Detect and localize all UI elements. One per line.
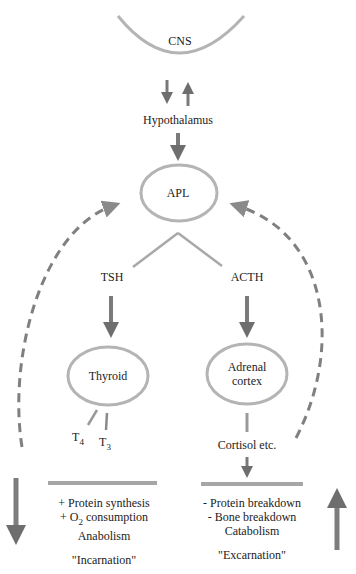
cortisol-label: Cortisol etc. [207,438,287,452]
diagram-canvas [0,0,356,574]
left-effects: + Protein synthesis + O2 consumption Ana… [44,496,164,567]
left-effect-o2-consumption: + O2 consumption [44,510,164,529]
left-feedback-dashed-arrow [19,206,112,447]
thyroid-output-strokes [88,410,107,430]
apl-branch-lines [133,233,222,267]
t3-label: T3 [95,435,115,454]
t4-label: T4 [68,430,88,449]
adrenal-line1: Adrenal [217,360,277,374]
cns-label: CNS [160,34,200,48]
tsh-label: TSH [92,270,132,284]
cns-hypothalamus-arrows [167,80,188,106]
adrenal-line2: cortex [217,374,277,388]
right-effect-catabolism: Catabolism [196,524,308,538]
incarnation-label: "Incarnation" [44,553,164,567]
acth-label: ACTH [222,270,272,284]
left-effect-protein-synthesis: + Protein synthesis [44,496,164,510]
left-effect-anabolism: Anabolism [44,529,164,543]
excarnation-label: "Excarnation" [196,548,308,562]
adrenal-cortex-label: Adrenal cortex [217,360,277,388]
right-effect-bone-breakdown: - Bone breakdown [196,510,308,524]
right-effect-protein-breakdown: - Protein breakdown [196,496,308,510]
thyroid-label: Thyroid [78,369,138,383]
apl-label: APL [158,186,198,200]
right-effects: - Protein breakdown - Bone breakdown Cat… [196,496,308,562]
hypothalamus-label: Hypothalamus [128,113,228,127]
